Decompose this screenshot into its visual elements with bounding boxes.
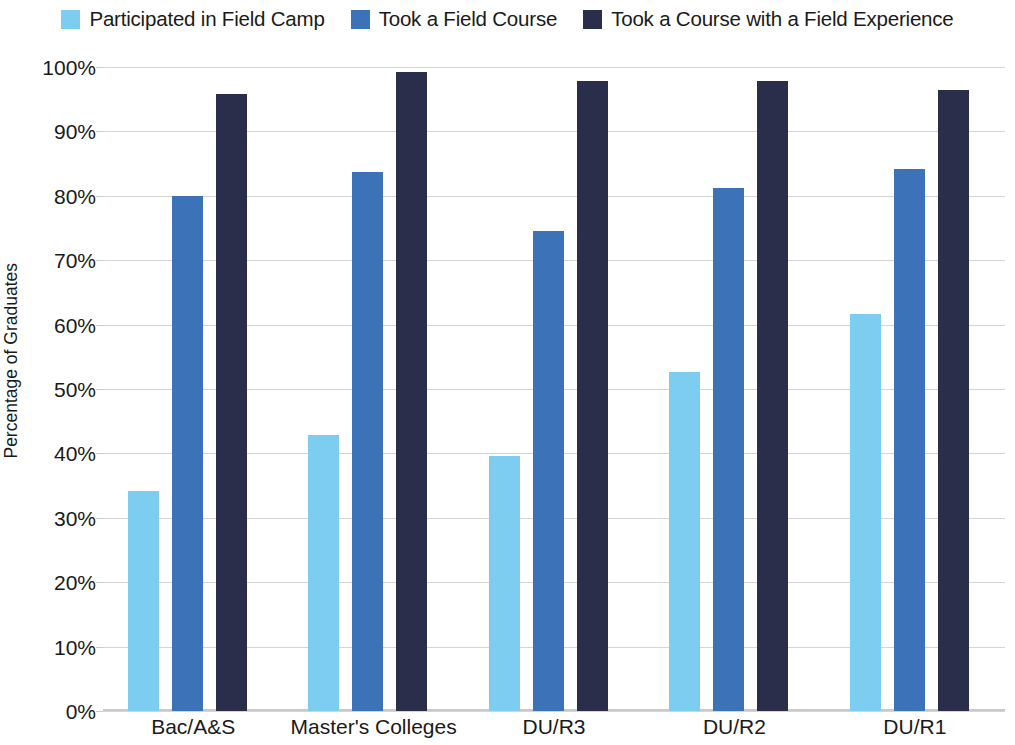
bar[interactable] [894, 169, 925, 711]
y-axis-tick-label: 20% [8, 572, 96, 593]
bar-group [283, 67, 463, 711]
x-axis-tick-label: DU/R3 [464, 716, 644, 745]
y-axis-tick-label: 30% [8, 507, 96, 528]
bar-chart: Participated in Field Camp Took a Field … [0, 0, 1015, 745]
y-axis-tick-mark [96, 389, 103, 390]
y-axis-tick-mark [96, 518, 103, 519]
bar[interactable] [669, 372, 700, 711]
bar[interactable] [396, 72, 427, 711]
legend-label: Took a Field Course [379, 9, 558, 30]
plot-area [103, 67, 1005, 711]
y-axis-tick-label: 50% [8, 379, 96, 400]
chart-legend: Participated in Field Camp Took a Field … [0, 0, 1015, 38]
y-axis-tick-label: 0% [8, 701, 96, 722]
y-axis-tick-label: 80% [8, 185, 96, 206]
legend-item-participated-in-field-camp[interactable]: Participated in Field Camp [61, 9, 324, 30]
y-axis-tick-mark [96, 711, 103, 712]
y-axis-tick-label: 40% [8, 443, 96, 464]
bar-groups [103, 67, 1005, 711]
bar[interactable] [850, 314, 881, 711]
legend-swatch-light-blue [61, 10, 80, 29]
y-axis-tick-mark [96, 453, 103, 454]
y-axis-tick-mark [96, 131, 103, 132]
x-axis-tick-label: Master's Colleges [283, 716, 463, 745]
legend-label: Participated in Field Camp [89, 9, 324, 30]
y-axis-tick-mark [96, 647, 103, 648]
bar-group [103, 67, 283, 711]
y-axis-tick-label: 60% [8, 314, 96, 335]
legend-swatch-dark-navy [583, 10, 602, 29]
bar[interactable] [172, 196, 203, 711]
bar[interactable] [216, 94, 247, 711]
x-axis-tick-label: Bac/A&S [103, 716, 283, 745]
bar[interactable] [128, 491, 159, 711]
y-axis-tick-label: 70% [8, 250, 96, 271]
y-axis-tick-mark [96, 196, 103, 197]
bar[interactable] [757, 81, 788, 711]
bar[interactable] [308, 435, 339, 711]
y-axis-tick-label: 10% [8, 636, 96, 657]
y-axis-tick-mark [96, 260, 103, 261]
y-axis-tick-label: 100% [8, 57, 96, 78]
bar[interactable] [489, 456, 520, 711]
y-axis-tick-label: 90% [8, 121, 96, 142]
y-axis-ticks: 100%90%80%70%60%50%40%30%20%10%0% [0, 67, 96, 711]
bar[interactable] [577, 81, 608, 711]
bar[interactable] [938, 90, 969, 711]
gridline [103, 711, 1005, 712]
bar[interactable] [713, 188, 744, 711]
bar-group [464, 67, 644, 711]
x-axis-tick-label: DU/R1 [825, 716, 1005, 745]
x-axis-tick-label: DU/R2 [644, 716, 824, 745]
legend-swatch-medium-blue [351, 10, 370, 29]
x-axis-labels: Bac/A&SMaster's CollegesDU/R3DU/R2DU/R1 [103, 716, 1005, 745]
bar[interactable] [352, 172, 383, 711]
legend-item-took-a-course-with-a-field-experience[interactable]: Took a Course with a Field Experience [583, 9, 953, 30]
bar-group [825, 67, 1005, 711]
legend-item-took-a-field-course[interactable]: Took a Field Course [351, 9, 558, 30]
y-axis-tick-mark [96, 67, 103, 68]
bar[interactable] [533, 231, 564, 711]
legend-label: Took a Course with a Field Experience [611, 9, 953, 30]
y-axis-tick-mark [96, 582, 103, 583]
bar-group [644, 67, 824, 711]
y-axis-tick-mark [96, 325, 103, 326]
